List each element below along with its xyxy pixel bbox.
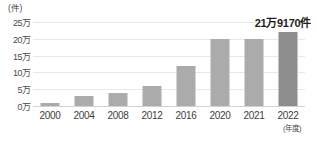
y-axis-tick-label: 5万 [1, 83, 31, 96]
y-axis-unit-label: (件) [8, 1, 22, 13]
bar-slot [135, 0, 169, 106]
y-axis-tick-label: 25万 [1, 16, 31, 29]
bar-slot [203, 0, 237, 106]
bar-chart: (件) 25万20万15万10万5万0万 2000200420082012201… [0, 0, 317, 144]
x-axis-tick-label-2022: 2022 [268, 110, 308, 121]
bar-2008[interactable] [109, 93, 128, 106]
y-axis-tick-label: 10万 [1, 66, 31, 79]
x-axis: 20002004200820122016202020212022 [33, 110, 305, 128]
x-axis-unit-label: (年度) [283, 122, 301, 133]
bar-2012[interactable] [143, 86, 162, 106]
bar-2004[interactable] [75, 96, 94, 106]
bar-slot [169, 0, 203, 106]
bar-2020[interactable] [211, 39, 230, 106]
bar-slot [101, 0, 135, 106]
bar-2016[interactable] [177, 66, 196, 106]
bar-slot [67, 0, 101, 106]
y-axis-tick-label: 20万 [1, 32, 31, 45]
y-axis: (件) 25万20万15万10万5万0万 [0, 0, 31, 144]
y-axis-tick-label: 15万 [1, 49, 31, 62]
bar-2000[interactable] [41, 103, 60, 106]
bar-2022[interactable] [279, 32, 298, 106]
bar-2021[interactable] [245, 39, 264, 106]
bar-slot [33, 0, 67, 106]
data-label-2022: 21万9170件 [255, 14, 311, 30]
y-axis-tick-label: 0万 [1, 100, 31, 113]
